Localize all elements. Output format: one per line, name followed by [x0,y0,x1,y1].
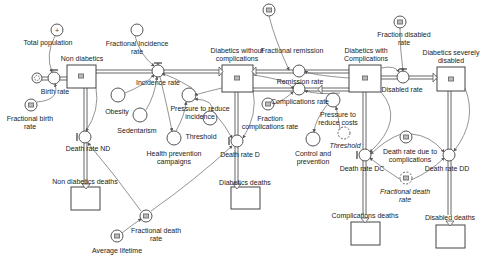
label-threshold-shadow: Threshold [329,142,360,150]
label-diabetics-deaths: Diabetics deaths [219,179,271,187]
aux-fractional-incidence-rate[interactable] [131,24,143,36]
label-threshold: Threshold [185,133,216,141]
label-fractional-death-rate-shadow: Fractional death rate [375,188,435,204]
aux-health-prevention-campaigns[interactable] [167,131,181,145]
valve-disabled-rate[interactable] [397,71,409,83]
label-non-diabetics: Non diabetics [61,55,103,63]
stock-non-diabetics-deaths[interactable] [71,187,100,210]
label-birth-rate: Birth rate [41,88,69,96]
stock-complications-deaths[interactable] [351,222,380,245]
label-diabetics-severely-disabled: Diabetics severely disabled [421,49,481,65]
label-total-population: Total population [23,39,72,47]
label-fractional-remission: Fractional remission [261,47,324,55]
label-fraction-complications-rate: Fraction complications rate [240,115,300,131]
cloud-source-icon [32,73,42,83]
label-disabled-deaths: Disabled deaths [425,214,475,222]
label-pressure-to-reduce-costs: Pressure to reduce costs [313,111,363,127]
stock-non-diabetics[interactable] [67,65,96,88]
aux-obesity[interactable] [111,88,125,102]
label-complications-rate: Complications rate [271,98,329,106]
valve-birth-rate[interactable] [48,72,60,84]
label-fractional-incidence-rate: Fractional Incidence rate [102,40,172,56]
aux-pressure-to-reduce-incidence[interactable] [182,88,196,102]
label-obesity: Obesity [105,108,129,116]
label-incidence-rate: Incidence rate [136,79,180,87]
plus-icon: + [55,27,59,34]
stock-diabetics-severely-disabled[interactable] [437,67,465,91]
label-death-rate-due-to-complications: Death rate due to complications [375,148,445,164]
label-death-rate-nd: Death rate ND [66,145,111,153]
label-control-and-prevention: Control and prevention [288,150,338,166]
label-death-rate-d: Death rate D [220,151,260,159]
label-remission-rate: Remission rate [277,78,324,86]
label-sedentarism: Sedentarism [117,127,156,135]
label-average-lifetime: Average lifetime [92,247,142,255]
label-fractional-death-rate: Fractional death rate [126,227,186,243]
label-death-rate-dd: Death rate DD [425,165,470,173]
stock-diabetics-without-complications[interactable] [222,65,253,92]
valve-death-rate-d[interactable] [231,135,243,147]
label-diabetics-without-complications: Diabetics without complications [207,47,267,63]
label-complications-deaths: Complications deaths [332,212,399,220]
label-fractional-birth-rate: Fractional birth rate [0,115,60,131]
stock-diabetics-with-complications[interactable] [349,65,381,92]
valve-complications-path[interactable] [293,65,305,77]
aux-sedentarism[interactable] [133,108,147,122]
aux-control-and-prevention[interactable] [306,132,320,146]
label-pressure-to-reduce-incidence: Pressure to reduce incidence [160,105,240,121]
valve-death-rate-dc[interactable] [359,149,371,161]
stock-diabetics-deaths[interactable] [231,187,260,209]
valve-death-rate-nd[interactable] [79,131,91,143]
label-health-prevention-campaigns: Health prevention campaigns [144,150,204,166]
label-diabetics-with-complications: Diabetics with Complications [336,47,396,63]
label-death-rate-dc: Death rate DC [340,165,385,173]
stock-disabled-deaths[interactable] [436,225,465,248]
label-non-diabetics-deaths: Non diabetics deaths [52,178,117,186]
label-disabled-rate: Disabled rate [381,86,422,94]
label-fraction-disabled-rate: Fraction disabled rate [374,31,434,47]
